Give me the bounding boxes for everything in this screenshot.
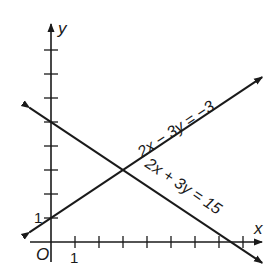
- coordinate-graph: y x O 1 1 2x − 3y = −3 2x + 3y = 15: [0, 0, 280, 280]
- y-tick-label-1: 1: [34, 209, 42, 226]
- y-axis-label: y: [57, 19, 68, 38]
- line-2x-plus-3y-eq-15: [29, 108, 262, 263]
- graph-svg: y x O 1 1 2x − 3y = −3 2x + 3y = 15: [0, 0, 280, 280]
- equation-label-line1: 2x − 3y = −3: [133, 97, 217, 161]
- equation-label-line2: 2x + 3y = 15: [142, 154, 226, 218]
- origin-label: O: [36, 245, 49, 264]
- x-axis-label: x: [253, 219, 263, 238]
- x-tick-label-1: 1: [70, 249, 78, 266]
